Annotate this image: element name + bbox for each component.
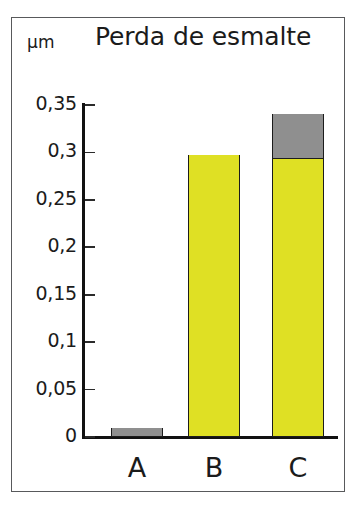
y-axis-tick — [85, 341, 95, 343]
bar-c — [272, 114, 324, 437]
y-axis-tick-label: 0,15 — [35, 282, 77, 304]
y-axis-tick — [85, 436, 95, 438]
enamel-loss-bar-chart: µm Perda de esmalte 0,350,30,250,20,150,… — [0, 0, 356, 505]
bar-segment-divider — [273, 158, 323, 160]
y-axis-tick-label: 0 — [65, 424, 77, 446]
y-axis-tick-label: 0,2 — [47, 234, 77, 256]
y-axis-tick-label: 0,35 — [35, 92, 77, 114]
y-axis-tick — [85, 389, 95, 391]
y-axis-tick — [85, 152, 95, 154]
x-axis-tick-label-b: B — [184, 452, 244, 483]
y-axis-tick — [85, 199, 95, 201]
plot-area: 0,350,30,250,20,150,10,050 ABC — [0, 0, 356, 505]
bar-b-segment-yellow — [189, 155, 239, 437]
y-axis-tick — [85, 294, 95, 296]
y-axis-tick — [85, 246, 95, 248]
y-axis-tick-label: 0,05 — [35, 377, 77, 399]
y-axis-tick-label: 0,3 — [47, 139, 77, 161]
bar-b — [188, 155, 240, 437]
y-axis-tick — [85, 104, 95, 106]
bar-c-segment-yellow — [273, 158, 323, 437]
bar-a — [111, 428, 163, 437]
bar-a-segment-gray — [112, 428, 162, 437]
y-axis-tick-label: 0,25 — [35, 187, 77, 209]
x-axis-tick-label-a: A — [107, 452, 167, 483]
x-axis-tick-label-c: C — [268, 452, 328, 483]
bar-c-segment-gray — [273, 114, 323, 158]
y-axis-tick-label: 0,1 — [47, 329, 77, 351]
